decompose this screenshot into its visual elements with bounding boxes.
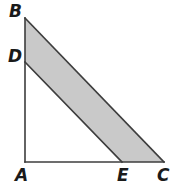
geometry-canvas: [0, 0, 180, 188]
vertex-label-b: B: [9, 3, 22, 20]
vertex-label-a: A: [15, 167, 28, 184]
geometry-figure: B D A E C: [0, 0, 180, 188]
segment-bc: [25, 18, 164, 162]
vertex-label-c: C: [157, 167, 169, 184]
vertex-label-e: E: [117, 167, 129, 184]
vertex-label-d: D: [8, 48, 22, 65]
